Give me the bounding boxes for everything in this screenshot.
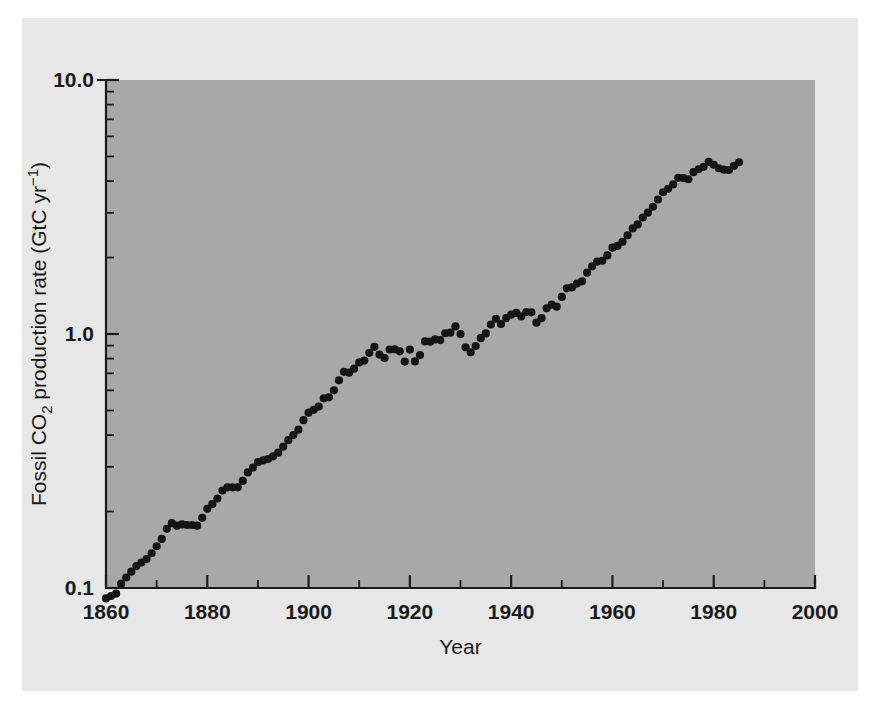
data-point: [315, 402, 323, 410]
x-tick-label: 1920: [386, 600, 433, 623]
data-point: [112, 590, 120, 598]
data-point: [558, 293, 566, 301]
data-point: [335, 376, 343, 384]
data-point: [634, 220, 642, 228]
data-point: [472, 342, 480, 350]
data-point: [330, 386, 338, 394]
data-point: [198, 514, 206, 522]
x-tick-label: 1980: [690, 600, 737, 623]
data-point: [396, 347, 404, 355]
data-point: [649, 203, 657, 211]
data-point: [735, 158, 743, 166]
data-point: [325, 393, 333, 401]
y-tick-label: 0.1: [65, 576, 95, 599]
data-point: [537, 314, 545, 322]
data-point: [239, 477, 247, 485]
y-axis-tick-labels: 0.11.010.0: [53, 68, 94, 599]
data-point: [401, 357, 409, 365]
y-tick-label: 10.0: [53, 68, 94, 91]
data-point: [451, 322, 459, 330]
x-tick-label: 1960: [589, 600, 636, 623]
data-point: [380, 354, 388, 362]
x-tick-label: 1940: [488, 600, 535, 623]
data-point: [578, 277, 586, 285]
data-point: [436, 336, 444, 344]
data-point: [669, 180, 677, 188]
data-point: [153, 542, 161, 550]
chart-container: 18601880190019201940196019802000 0.11.01…: [0, 0, 881, 710]
data-point: [603, 251, 611, 259]
x-tick-label: 1900: [285, 600, 332, 623]
data-point: [193, 522, 201, 530]
data-point: [299, 416, 307, 424]
x-tick-label: 1880: [184, 600, 231, 623]
co2-production-scatter-chart: 18601880190019201940196019802000 0.11.01…: [0, 0, 881, 710]
data-point: [482, 329, 490, 337]
data-point: [279, 443, 287, 451]
data-point: [553, 303, 561, 311]
data-point: [654, 195, 662, 203]
data-point: [416, 351, 424, 359]
data-point: [360, 356, 368, 364]
figure-page: 18601880190019201940196019802000 0.11.01…: [0, 0, 881, 710]
y-tick-label: 1.0: [65, 322, 94, 345]
data-point: [294, 426, 302, 434]
data-point: [684, 175, 692, 183]
svg-text:Fossil CO2 production rate (Gt: Fossil CO2 production rate (GtC yr−1): [24, 162, 55, 506]
data-point: [456, 330, 464, 338]
y-axis-title: Fossil CO2 production rate (GtC yr−1): [24, 162, 55, 506]
data-point: [158, 535, 166, 543]
data-point: [234, 483, 242, 491]
x-tick-label: 1860: [83, 600, 130, 623]
data-point: [618, 238, 626, 246]
data-point: [624, 231, 632, 239]
x-axis-tick-labels: 18601880190019201940196019802000: [83, 600, 839, 623]
data-point: [147, 549, 155, 557]
data-point: [527, 308, 535, 316]
data-point: [370, 343, 378, 351]
data-point: [213, 494, 221, 502]
x-axis-title: Year: [439, 635, 481, 658]
x-tick-label: 2000: [792, 600, 839, 623]
data-point: [406, 346, 414, 354]
